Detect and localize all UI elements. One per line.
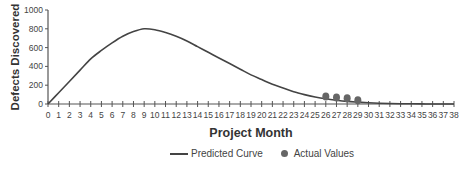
x-tick-label: 13 bbox=[182, 110, 192, 120]
y-tick-label: 600 bbox=[29, 43, 43, 53]
x-tick-label: 28 bbox=[342, 110, 352, 120]
x-tick-label: 16 bbox=[214, 110, 224, 120]
x-tick-label: 29 bbox=[353, 110, 363, 120]
x-tick-label: 10 bbox=[150, 110, 160, 120]
actual-value-point bbox=[354, 96, 361, 104]
x-tick-label: 17 bbox=[225, 110, 235, 120]
x-tick-label: 7 bbox=[120, 110, 125, 120]
legend-dot-icon bbox=[281, 150, 288, 157]
legend-line-icon bbox=[170, 153, 188, 155]
y-tick-label: 200 bbox=[29, 80, 43, 90]
y-axis-title: Defects Discovered bbox=[9, 4, 21, 111]
x-tick-label: 20 bbox=[257, 110, 267, 120]
x-tick-label: 8 bbox=[131, 110, 136, 120]
x-tick-label: 35 bbox=[417, 110, 427, 120]
x-tick-label: 4 bbox=[88, 110, 93, 120]
x-tick-label: 30 bbox=[364, 110, 374, 120]
predicted-curve bbox=[48, 29, 454, 104]
x-tick-label: 6 bbox=[110, 110, 115, 120]
actual-value-point bbox=[333, 93, 340, 101]
x-tick-label: 3 bbox=[78, 110, 83, 120]
x-tick-label: 2 bbox=[67, 110, 72, 120]
x-tick-label: 14 bbox=[193, 110, 203, 120]
x-tick-label: 32 bbox=[385, 110, 395, 120]
chart: 0200400600800100001234567891011121314151… bbox=[0, 0, 467, 174]
x-tick-label: 18 bbox=[236, 110, 246, 120]
x-tick-label: 37 bbox=[439, 110, 449, 120]
x-tick-label: 12 bbox=[171, 110, 181, 120]
x-tick-label: 24 bbox=[300, 110, 310, 120]
x-tick-label: 25 bbox=[310, 110, 320, 120]
x-tick-label: 9 bbox=[142, 110, 147, 120]
actual-value-point bbox=[322, 92, 329, 100]
y-tick-label: 1000 bbox=[24, 5, 43, 15]
x-tick-label: 1 bbox=[56, 110, 61, 120]
x-tick-label: 11 bbox=[161, 110, 170, 120]
x-tick-label: 0 bbox=[46, 110, 51, 120]
y-tick-label: 0 bbox=[38, 99, 43, 109]
y-tick-label: 400 bbox=[29, 61, 43, 71]
x-tick-label: 19 bbox=[246, 110, 256, 120]
actual-value-point bbox=[344, 94, 351, 102]
x-tick-label: 22 bbox=[278, 110, 288, 120]
legend: Predicted Curve Actual Values bbox=[170, 148, 354, 159]
x-tick-label: 26 bbox=[321, 110, 331, 120]
x-tick-label: 15 bbox=[204, 110, 214, 120]
x-tick-label: 36 bbox=[428, 110, 438, 120]
x-tick-label: 27 bbox=[332, 110, 342, 120]
x-axis-title: Project Month bbox=[209, 126, 292, 140]
x-tick-label: 23 bbox=[289, 110, 299, 120]
x-tick-label: 31 bbox=[374, 110, 384, 120]
x-tick-label: 21 bbox=[268, 110, 278, 120]
legend-predicted-label: Predicted Curve bbox=[191, 148, 263, 159]
y-tick-label: 800 bbox=[29, 24, 43, 34]
x-tick-label: 34 bbox=[407, 110, 417, 120]
x-tick-label: 38 bbox=[449, 110, 459, 120]
x-tick-label: 33 bbox=[396, 110, 406, 120]
legend-actual-label: Actual Values bbox=[294, 148, 354, 159]
x-tick-label: 5 bbox=[99, 110, 104, 120]
